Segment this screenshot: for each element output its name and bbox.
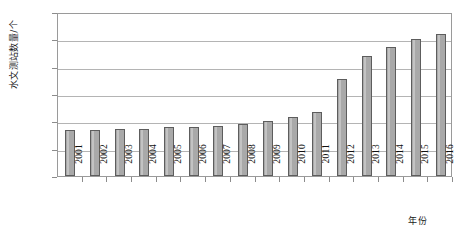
x-tick-label: 2016 [445, 144, 455, 184]
x-tick-label: 2008 [247, 144, 257, 184]
bar-chart: 水文测站数量/个 0200004000060000800001000001200… [0, 0, 457, 233]
x-tick-label: 2004 [148, 144, 158, 184]
x-tick-label: 2009 [272, 144, 282, 184]
x-tick-label: 2015 [420, 144, 430, 184]
x-tick-label: 2003 [124, 144, 134, 184]
y-axis-title: 水文测站数量/个 [7, 0, 20, 120]
y-tick-mark [52, 177, 57, 178]
x-tick-label: 2006 [198, 144, 208, 184]
x-tick-label: 2005 [173, 144, 183, 184]
x-tick-label: 2012 [346, 144, 356, 184]
x-tick-label: 2011 [321, 144, 331, 184]
x-tick-label: 2007 [222, 144, 232, 184]
x-tick-label: 2014 [395, 144, 405, 184]
x-tick-label: 2013 [371, 144, 381, 184]
x-tick-label: 2001 [74, 144, 84, 184]
x-tick-label: 2002 [99, 144, 109, 184]
x-axis-title: 年份 [408, 214, 427, 227]
x-tick-label: 2010 [297, 144, 307, 184]
